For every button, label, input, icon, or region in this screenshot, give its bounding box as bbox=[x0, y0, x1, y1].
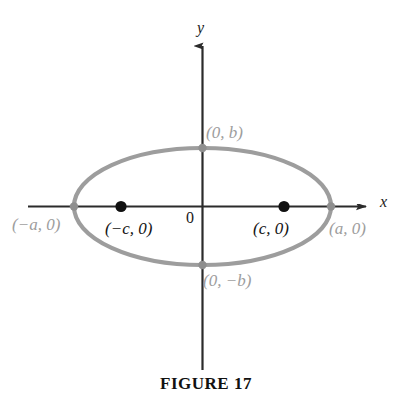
focus-right-dot bbox=[278, 201, 289, 212]
vertex-top-label: (0, b) bbox=[206, 124, 243, 141]
vertex-right-label: (a, 0) bbox=[329, 220, 366, 237]
focus-right-label: (c, 0) bbox=[253, 220, 289, 237]
vertex-bottom-dot bbox=[198, 261, 206, 269]
vertex-right-dot bbox=[327, 202, 335, 210]
figure-caption: FIGURE 17 bbox=[0, 374, 412, 394]
vertex-left-label: (−a, 0) bbox=[12, 216, 60, 233]
vertex-left-dot bbox=[70, 202, 78, 210]
focus-left-label: (−c, 0) bbox=[105, 220, 152, 237]
ellipse-diagram-canvas bbox=[0, 0, 412, 405]
figure-17-illustration: y x 0 (0, b) (0, −b) (−a, 0) (a, 0) (−c,… bbox=[0, 0, 412, 405]
y-axis-label: y bbox=[197, 20, 204, 36]
x-axis-label: x bbox=[380, 194, 387, 210]
focus-left-dot bbox=[115, 201, 126, 212]
vertex-bottom-label: (0, −b) bbox=[203, 272, 251, 289]
origin-label: 0 bbox=[186, 210, 194, 226]
vertex-top-dot bbox=[198, 144, 206, 152]
